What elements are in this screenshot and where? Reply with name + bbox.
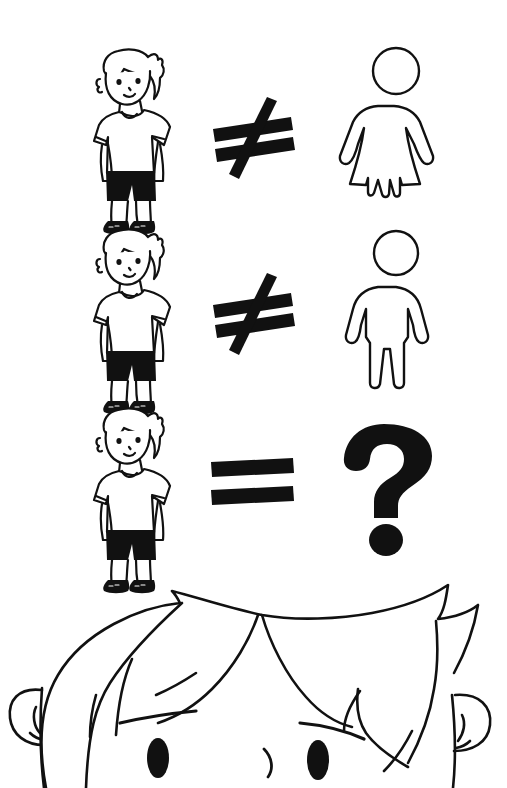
operator-not-equal-1: ≠ xyxy=(205,85,305,185)
equals-icon xyxy=(205,452,305,532)
portrait-closeup: close-up of child's worried face xyxy=(0,555,507,788)
portrait-drawing xyxy=(0,555,507,788)
comic-canvas: A child is shown three times. Each time … xyxy=(0,0,507,788)
question-mark-symbol: question mark xyxy=(336,420,446,560)
not-equal-icon xyxy=(205,261,305,361)
operator-equals: = xyxy=(205,452,305,532)
question-mark-icon xyxy=(336,420,446,560)
not-equal-icon xyxy=(205,85,305,185)
comic-row-3: = question mark xyxy=(0,362,507,572)
operator-not-equal-2: ≠ xyxy=(205,261,305,361)
